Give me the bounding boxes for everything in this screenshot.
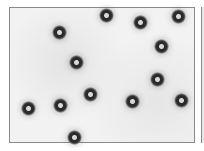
particle-ring — [174, 93, 189, 108]
particle-ring — [53, 98, 68, 113]
particle-ring — [171, 9, 186, 24]
particle-ring — [52, 25, 67, 40]
micrograph-panel — [9, 7, 195, 143]
particle-ring — [150, 72, 165, 87]
particle-ring — [99, 8, 114, 23]
particle-ring — [83, 87, 98, 102]
particle-ring — [69, 55, 84, 70]
particle-ring — [154, 39, 169, 54]
particle-ring — [133, 15, 148, 30]
particle-ring — [125, 94, 140, 109]
adjacent-panel-edge — [201, 7, 204, 143]
particle-ring — [67, 130, 82, 145]
particle-ring — [21, 101, 36, 116]
